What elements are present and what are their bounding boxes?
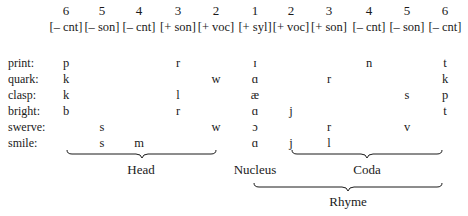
segment-cell: w [211, 72, 220, 87]
column-number: 4 [136, 3, 143, 19]
column-feature: [– son] [389, 20, 424, 35]
row-word-label: bright: [8, 104, 40, 119]
column-feature: [+ voc] [273, 20, 310, 35]
segment-cell: j [289, 136, 292, 151]
segment-cell: n [366, 56, 372, 71]
row-word-label: smile: [8, 136, 37, 151]
segment-cell: t [443, 104, 446, 119]
segment-cell: b [63, 104, 69, 119]
segment-cell: t [443, 56, 446, 71]
column-feature: [+ voc] [198, 20, 235, 35]
segment-cell: l [327, 136, 330, 151]
column-number: 5 [404, 3, 411, 19]
column-number: 6 [63, 3, 70, 19]
segment-cell: r [176, 56, 180, 71]
segment-cell: r [327, 120, 331, 135]
column-feature: [– cnt] [50, 20, 83, 35]
segment-cell: v [404, 120, 410, 135]
segment-cell: r [327, 72, 331, 87]
column-number: 6 [442, 3, 449, 19]
segment-cell: k [442, 72, 448, 87]
segment-cell: k [63, 88, 69, 103]
column-feature: [+ son] [160, 20, 196, 35]
segment-cell: p [63, 56, 69, 71]
column-feature: [– cnt] [353, 20, 386, 35]
segment-cell: p [442, 88, 448, 103]
segment-cell: j [289, 104, 292, 119]
segment-cell: s [405, 88, 410, 103]
segment-cell: r [176, 104, 180, 119]
nucleus-label: Nucleus [234, 162, 277, 178]
column-feature: [– son] [84, 20, 119, 35]
column-feature: [– cnt] [123, 20, 156, 35]
segment-cell: s [100, 136, 105, 151]
column-number: 3 [175, 3, 182, 19]
row-word-label: print: [8, 56, 34, 71]
column-feature: [+ son] [311, 20, 347, 35]
column-feature: [– cnt] [429, 20, 462, 35]
column-feature: [+ syl] [238, 20, 271, 35]
column-number: 3 [326, 3, 333, 19]
column-number: 4 [366, 3, 373, 19]
segment-cell: w [211, 120, 220, 135]
segment-cell: ɔ [252, 120, 258, 135]
segment-cell: s [100, 120, 105, 135]
rhyme-label: Rhyme [329, 194, 367, 210]
column-number: 2 [213, 3, 220, 19]
column-number: 5 [99, 3, 106, 19]
segment-cell: æ [251, 88, 259, 103]
segment-cell: l [176, 88, 179, 103]
segment-cell: ɑ [252, 72, 259, 87]
segment-cell: m [134, 136, 144, 151]
column-number: 1 [252, 3, 259, 19]
segment-cell: k [63, 72, 69, 87]
row-word-label: quark: [8, 72, 39, 87]
segment-cell: ɑ [252, 104, 259, 119]
column-number: 2 [288, 3, 295, 19]
head-label: Head [127, 162, 154, 178]
coda-label: Coda [353, 162, 380, 178]
segment-cell: ɑ [252, 136, 259, 151]
row-word-label: clasp: [8, 88, 36, 103]
row-word-label: swerve: [8, 120, 45, 135]
segment-cell: ɪ [253, 56, 256, 71]
